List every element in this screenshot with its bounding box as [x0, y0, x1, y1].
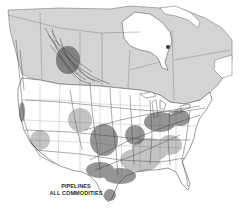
island: [166, 45, 170, 49]
title-line-1: PIPELINES: [46, 183, 106, 190]
pipeline-map: [0, 0, 241, 216]
map-legend-title: PIPELINES ALL COMMODITIES: [46, 183, 106, 197]
title-line-2: ALL COMMODITIES: [46, 190, 106, 197]
